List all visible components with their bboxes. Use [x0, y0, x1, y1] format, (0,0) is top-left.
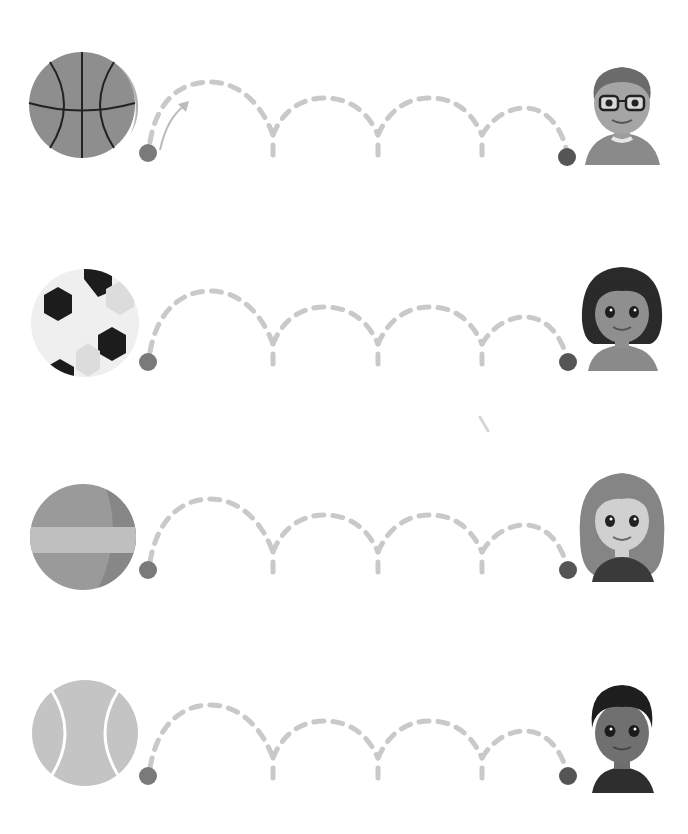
dashed-trace-path[interactable]: [150, 82, 566, 156]
dashed-trace-path[interactable]: [150, 291, 566, 365]
girl-long-hair-avatar: [580, 473, 665, 582]
stray-mark: [478, 415, 492, 435]
dashed-trace-path[interactable]: [150, 499, 566, 573]
start-dot[interactable]: [139, 353, 157, 371]
beach-ball-icon: [28, 483, 140, 593]
trace-row-soccer-ball: [0, 209, 688, 389]
soccer-ball-icon: [31, 264, 139, 393]
boy-with-glasses-avatar: [585, 67, 660, 165]
end-dot[interactable]: [559, 561, 577, 579]
end-dot[interactable]: [559, 767, 577, 785]
start-dot[interactable]: [139, 144, 157, 162]
basketball-icon: [29, 52, 138, 158]
start-dot[interactable]: [139, 767, 157, 785]
tracing-worksheet: trace-the-bouncing-ball: [0, 0, 688, 834]
end-dot[interactable]: [558, 148, 576, 166]
trace-row-basketball: [0, 0, 688, 180]
trace-row-beach-ball: [0, 417, 688, 597]
boy-dark-hair-avatar: [592, 685, 654, 793]
end-dot[interactable]: [559, 353, 577, 371]
tennis-ball-icon: [32, 680, 138, 786]
start-dot[interactable]: [139, 561, 157, 579]
dashed-trace-path[interactable]: [150, 705, 566, 779]
trace-row-tennis-ball: [0, 623, 688, 803]
girl-dark-hair-avatar: [582, 267, 662, 371]
